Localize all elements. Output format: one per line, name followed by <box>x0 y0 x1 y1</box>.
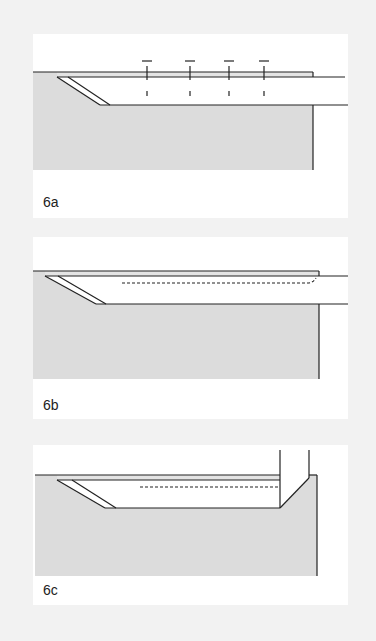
panel-6b: 6b <box>33 237 348 419</box>
veneer-strip <box>57 72 313 77</box>
diagram-6c <box>33 445 348 605</box>
groove-cutout <box>57 77 348 105</box>
panel-label-6b: 6b <box>43 397 59 413</box>
veneer-strip <box>57 475 280 480</box>
panel-6c: 6c <box>33 445 348 605</box>
diagram-6b <box>33 237 348 419</box>
panel-label-6c: 6c <box>43 582 58 598</box>
panel-label-6a: 6a <box>43 194 59 210</box>
panel-6a: 6a <box>33 34 348 218</box>
groove-cutout <box>45 276 348 304</box>
veneer-strip <box>45 271 319 276</box>
diagram-6a <box>33 34 348 218</box>
